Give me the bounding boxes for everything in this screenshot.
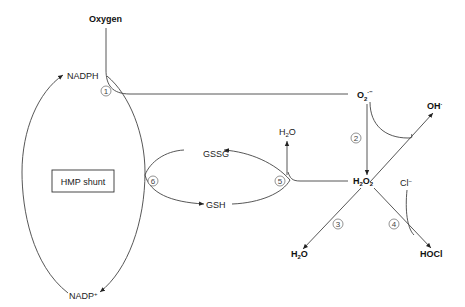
gssg-arc [224,150,290,180]
step-3-marker: 3 [333,219,343,229]
oxygen-label: Oxygen [89,14,122,24]
hydroxyl-label: OH· [427,101,443,111]
step-6-marker: 6 [148,176,158,186]
hocl-label: HOCl [420,249,443,259]
h2o2-to-hydroxyl-arrow [370,113,433,182]
gssg-label: GSSG [203,149,229,159]
chloride-label: Cl− [400,178,413,188]
step-2-marker: 2 [351,133,361,143]
h2o2-to-glutathione-line [288,172,348,181]
hmp-shunt-label: HMP shunt [61,177,106,187]
oxygen-to-superoxide-line [106,28,348,94]
water-top-label: H2O [279,127,296,138]
gsh-label: GSH [206,200,226,210]
nadph-label: NADPH [67,71,99,81]
h2o2-label: H2O2 [353,176,374,187]
svg-text:2: 2 [354,134,359,143]
svg-text:6: 6 [151,177,156,186]
water-bottom-label: H2O [291,249,308,260]
h2o2-to-hocl-arrow [374,188,431,248]
superoxide-to-hydroxyl-curve [370,102,412,138]
svg-text:3: 3 [336,220,341,229]
h2o2-to-water-arrow [303,188,361,249]
svg-text:5: 5 [278,177,283,186]
diagram-canvas: HMP shunt Oxygen NADPH NADP+ GSSG GSH H2… [0,0,465,307]
svg-text:1: 1 [104,87,109,96]
step-5-marker: 5 [275,176,285,186]
nadp-plus-label: NADP+ [69,291,98,301]
svg-text:4: 4 [392,220,397,229]
step-1-marker: 1 [101,86,111,96]
oxidative-burst-diagram: HMP shunt Oxygen NADPH NADP+ GSSG GSH H2… [0,0,465,307]
superoxide-label: O2·− [357,89,373,102]
step-4-marker: 4 [389,219,399,229]
